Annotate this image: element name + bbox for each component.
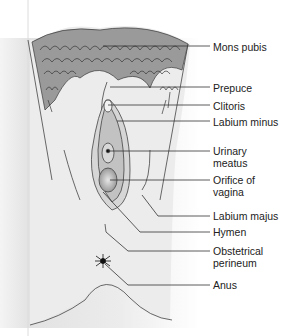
label-obstetrical-perineum: Obstetrical perineum bbox=[213, 245, 263, 269]
label-prepuce: Prepuce bbox=[213, 82, 252, 94]
label-labium-majus: Labium majus bbox=[213, 210, 278, 222]
label-urinary-meatus: Urinary meatus bbox=[213, 145, 247, 169]
label-orifice-of-vagina: Orifice of vagina bbox=[213, 174, 255, 198]
label-anus: Anus bbox=[213, 279, 237, 291]
label-hymen: Hymen bbox=[213, 226, 246, 238]
label-mons-pubis: Mons pubis bbox=[213, 41, 267, 53]
label-labium-minus: Labium minus bbox=[213, 116, 278, 128]
label-clitoris: Clitoris bbox=[213, 100, 245, 112]
